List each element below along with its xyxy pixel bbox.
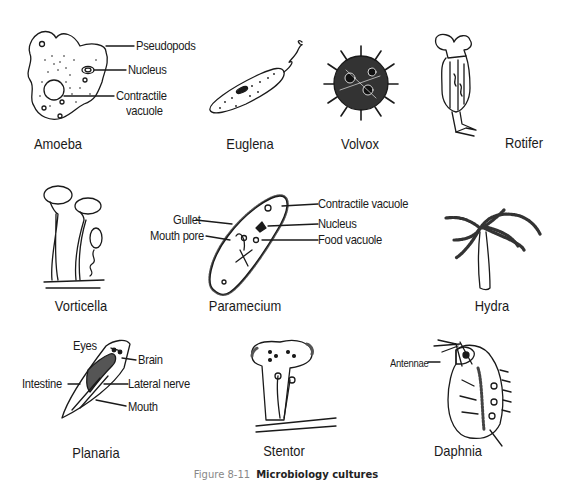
name-paramecium: Paramecium: [198, 297, 293, 314]
label-gullet: Gullet: [173, 213, 201, 227]
label-brain: Brain: [138, 353, 163, 367]
daphnia-drawing: [434, 340, 511, 446]
volvox-drawing: [324, 46, 398, 120]
rotifer-drawing: [436, 35, 476, 136]
label-mouth-pore: Mouth pore: [150, 229, 204, 243]
label-eyes: Eyes: [73, 339, 97, 353]
label-lateral-nerve: Lateral nerve: [128, 377, 190, 391]
label-food-vacuole: Food vacuole: [318, 233, 382, 247]
name-planaria: Planaria: [62, 444, 131, 461]
amoeba-drawing: [28, 32, 134, 120]
caption-number: Figure 8-11: [194, 469, 250, 480]
name-euglena: Euglena: [216, 135, 285, 152]
stentor-drawing: [252, 341, 336, 433]
label-intestine: Intestine: [22, 377, 62, 391]
label-nucleus: Nucleus: [128, 63, 167, 77]
label-vacuole: vacuole: [126, 104, 163, 118]
label-contractile: Contractile: [116, 89, 167, 103]
name-hydra: Hydra: [458, 297, 527, 314]
name-amoeba: Amoeba: [24, 135, 93, 152]
label-contractile-vacuole: Contractile vacuole: [318, 197, 408, 211]
figure-caption: Figure 8-11Microbiology cultures: [0, 469, 572, 480]
name-daphnia: Daphnia: [424, 442, 493, 459]
hydra-drawing: [446, 210, 540, 258]
label-antennae: Antennae: [390, 356, 428, 370]
label-pseudopods: Pseudopods: [136, 39, 196, 53]
name-stentor: Stentor: [250, 442, 319, 459]
vorticella-drawing: [44, 186, 104, 288]
name-volvox: Volvox: [326, 135, 395, 152]
euglena-drawing: [210, 41, 302, 113]
hydra-body: [479, 232, 491, 290]
microbiology-illustrations: [0, 0, 572, 497]
name-vorticella: Vorticella: [42, 297, 119, 314]
name-rotifer: Rotifer: [490, 134, 559, 151]
paramecium-drawing: [210, 196, 287, 294]
label-nucleus-paramecium: Nucleus: [318, 217, 357, 231]
caption-title: Microbiology cultures: [256, 469, 378, 480]
label-mouth: Mouth: [128, 400, 158, 414]
